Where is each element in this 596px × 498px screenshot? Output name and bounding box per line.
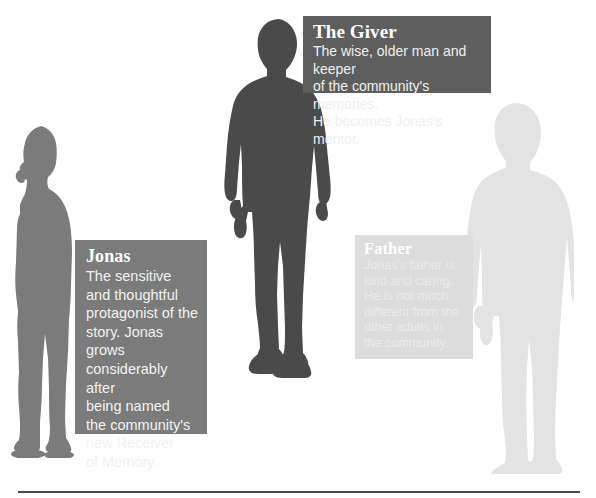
character-name-giver: The Giver xyxy=(313,21,483,42)
character-card-father[interactable]: Father Jonas's father is kind and caring… xyxy=(355,235,473,359)
character-description-father: Jonas's father is kind and caring. He is… xyxy=(364,258,466,352)
bottom-divider-rule xyxy=(18,491,580,493)
character-description-giver: The wise, older man and keeper of the co… xyxy=(313,43,483,149)
character-name-father: Father xyxy=(364,240,466,258)
character-name-jonas: Jonas xyxy=(86,246,199,266)
man-standing-silhouette-icon xyxy=(462,100,574,474)
character-card-giver[interactable]: The Giver The wise, older man and keeper… xyxy=(303,16,491,93)
character-card-jonas[interactable]: Jonas The sensitive and thoughtful prota… xyxy=(75,240,207,434)
character-diagram-canvas: Father Jonas's father is kind and caring… xyxy=(0,0,596,498)
character-description-jonas: The sensitive and thoughtful protagonist… xyxy=(86,267,199,472)
